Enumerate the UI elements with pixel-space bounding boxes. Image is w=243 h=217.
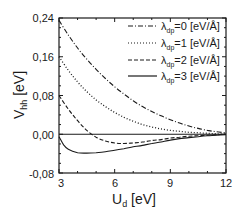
legend-sub: dp bbox=[167, 77, 175, 85]
legend-rest: =1 [eV/Å] bbox=[174, 37, 220, 49]
legend-entry: λdp=1 [eV/Å] bbox=[161, 37, 220, 52]
curve-dotted bbox=[59, 57, 226, 134]
legend-sub: dp bbox=[167, 44, 175, 52]
legend-sub: dp bbox=[167, 27, 175, 35]
legend-rest: =3 [eV/Å] bbox=[174, 70, 220, 82]
legend-entry: λdp=0 [eV/Å] bbox=[161, 20, 220, 35]
x-axis-title: Ud [eV] bbox=[112, 191, 156, 209]
legend-entry: λdp=2 [eV/Å] bbox=[161, 54, 220, 69]
y-tick-label: 0,16 bbox=[33, 51, 54, 63]
x-tick-label: 12 bbox=[220, 177, 232, 189]
y-axis-title: Vhh [eV] bbox=[11, 71, 29, 119]
y-tick-label: 0,00 bbox=[33, 129, 54, 141]
y-tick-label: -0,08 bbox=[29, 168, 54, 180]
curve-solid bbox=[59, 135, 226, 153]
legend-rest: =2 [eV/Å] bbox=[174, 54, 220, 66]
line-chart: 0,24 0,16 0,08 0,00 -0,08 3 6 9 12 Ud [e… bbox=[0, 0, 243, 217]
y-axis-title-unit: [eV] bbox=[11, 71, 27, 100]
y-tick-label: 0,24 bbox=[33, 12, 54, 24]
x-tick-label: 6 bbox=[112, 177, 118, 189]
x-tick-label: 9 bbox=[167, 177, 173, 189]
y-tick-label: 0,08 bbox=[33, 90, 54, 102]
x-axis-title-unit: [eV] bbox=[127, 191, 156, 207]
y-axis-title-sub: hh bbox=[19, 100, 29, 110]
legend: λdp=0 [eV/Å] λdp=1 [eV/Å] λdp=2 [eV/Å] λ… bbox=[128, 20, 220, 85]
legend-sub: dp bbox=[167, 61, 175, 69]
legend-entry: λdp=3 [eV/Å] bbox=[161, 70, 220, 85]
x-tick-label: 3 bbox=[58, 177, 64, 189]
x-axis-title-main: U bbox=[112, 191, 122, 207]
legend-rest: =0 [eV/Å] bbox=[174, 20, 220, 32]
